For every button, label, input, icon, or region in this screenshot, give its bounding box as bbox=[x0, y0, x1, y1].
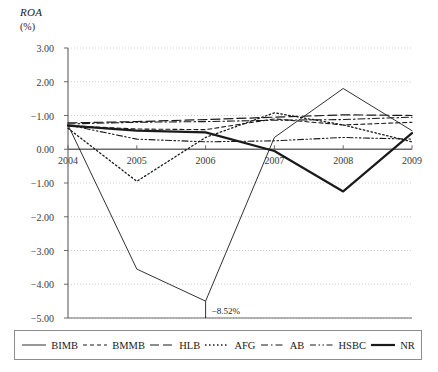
legend-item-label: BIMB bbox=[51, 340, 78, 351]
legend-item-bimb[interactable]: BIMB bbox=[21, 340, 78, 351]
dashed-line-icon bbox=[82, 340, 108, 350]
long-dash-line-icon bbox=[149, 340, 175, 350]
solid-thin-line-icon bbox=[21, 340, 47, 350]
dotted-line-icon bbox=[204, 340, 230, 350]
series-line-bimb bbox=[68, 89, 412, 302]
series-line-afg bbox=[68, 113, 412, 182]
plot-area bbox=[0, 0, 438, 372]
legend-item-ab[interactable]: AB bbox=[260, 340, 305, 351]
legend-item-afg[interactable]: AFG bbox=[204, 340, 255, 351]
legend-item-label: AB bbox=[290, 340, 305, 351]
legend-item-hlb[interactable]: HLB bbox=[149, 340, 200, 351]
roa-line-chart: ROA (%) 3.002.00−1.000.00−1.00−2.00−3.00… bbox=[0, 0, 438, 372]
legend-item-label: AFG bbox=[234, 340, 255, 351]
chart-legend: BIMBBMMBHLBAFGABHSBCNR bbox=[14, 330, 422, 360]
legend-item-label: NR bbox=[400, 340, 415, 351]
legend-item-hsbc[interactable]: HSBC bbox=[309, 340, 366, 351]
legend-item-nr[interactable]: NR bbox=[370, 340, 415, 351]
legend-item-label: HLB bbox=[179, 340, 200, 351]
series-line-hsbc bbox=[68, 125, 412, 142]
legend-item-label: HSBC bbox=[339, 340, 366, 351]
legend-item-label: BMMB bbox=[112, 340, 145, 351]
dash-dot-dot-line-icon bbox=[309, 340, 335, 350]
dash-dot-line-icon bbox=[260, 340, 286, 350]
solid-thick-line-icon bbox=[370, 340, 396, 350]
legend-item-bmmb[interactable]: BMMB bbox=[82, 340, 145, 351]
series-line-bmmb bbox=[68, 119, 412, 130]
